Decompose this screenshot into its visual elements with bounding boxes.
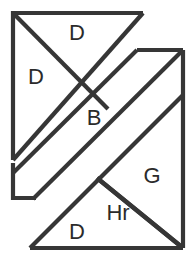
label-d-top: D xyxy=(69,20,85,45)
label-b-band: B xyxy=(87,105,102,130)
label-hr-small: Hr xyxy=(106,200,129,225)
tangram-figure: D D B G Hr D xyxy=(0,0,195,263)
label-d-left: D xyxy=(28,64,44,89)
label-d-bottom: D xyxy=(69,219,85,244)
diagram-canvas: D D B G Hr D xyxy=(0,0,195,263)
label-g-right: G xyxy=(143,163,160,188)
